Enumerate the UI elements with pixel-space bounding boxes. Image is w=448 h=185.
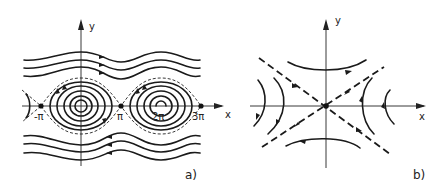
x-axis-arrow-icon xyxy=(416,103,426,109)
y-axis-label: y xyxy=(335,15,341,26)
trajectory xyxy=(288,60,366,70)
trajectory xyxy=(286,139,360,148)
trajectory xyxy=(385,90,394,124)
trajectory xyxy=(254,80,265,126)
tick-label: -π xyxy=(34,111,44,122)
tick-label: 2π xyxy=(152,111,164,122)
separatrix-unstable xyxy=(262,67,384,147)
saddle-point xyxy=(118,103,123,108)
panel-a: y x -π π 2π 3π a) xyxy=(22,19,231,182)
y-axis-arrow-icon xyxy=(78,19,84,30)
tick-label: π xyxy=(117,111,123,122)
x-axis-label: x xyxy=(419,111,425,122)
y-axis-arrow-icon xyxy=(323,19,329,30)
panel-label: b) xyxy=(413,168,425,182)
saddle-point xyxy=(323,103,329,109)
panel-b: y x b) xyxy=(250,15,426,182)
tick-label: 3π xyxy=(192,111,204,122)
saddle-point xyxy=(38,103,43,108)
rotation-orbit xyxy=(24,52,200,62)
x-axis-label: x xyxy=(225,109,231,120)
x-axis-arrow-icon xyxy=(214,103,224,109)
y-axis-label: y xyxy=(89,21,95,32)
saddle-point xyxy=(198,103,203,108)
panel-label: a) xyxy=(185,168,197,182)
figure: y x -π π 2π 3π a) y x xyxy=(0,0,448,185)
